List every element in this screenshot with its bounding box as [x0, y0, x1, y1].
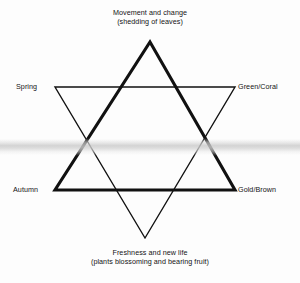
label-spring: Spring [16, 83, 37, 92]
downward-triangle [55, 87, 235, 238]
hexagram-diagram: Movement and change (shedding of leaves)… [0, 0, 300, 283]
label-green-coral: Green/Coral [238, 83, 278, 92]
label-top-line2: (shedding of leaves) [0, 18, 300, 27]
label-top-vertex: Movement and change (shedding of leaves) [0, 9, 300, 26]
upward-triangle [55, 42, 235, 190]
label-autumn: Autumn [13, 186, 38, 195]
label-gold-brown: Gold/Brown [238, 186, 276, 195]
label-bottom-line2: (plants blossoming and bearing fruit) [0, 258, 300, 267]
star-of-david-figure [0, 0, 300, 283]
label-bottom-vertex: Freshness and new life (plants blossomin… [0, 249, 300, 266]
